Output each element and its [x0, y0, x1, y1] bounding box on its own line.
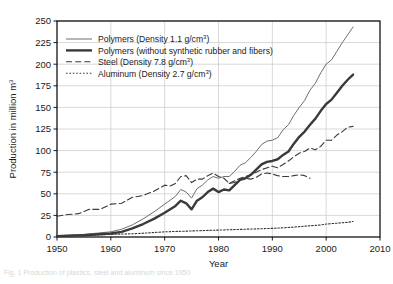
x-axis-tick-label: 1990: [262, 243, 283, 254]
y-axis-tick-label: 250: [35, 15, 51, 26]
y-axis-tick-label: 100: [35, 145, 51, 156]
y-axis-tick-label: 175: [35, 80, 51, 91]
y-axis-tick-label: 200: [35, 59, 51, 70]
legend-label-0: Polymers (Density 1.1 g/cm3): [98, 34, 209, 44]
y-axis-tick-label: 125: [35, 123, 51, 134]
series-line-3: [229, 126, 353, 183]
legend-label-2: Steel (Density 7.8 g/cm3): [98, 57, 193, 67]
x-axis-tick-label: 2000: [316, 243, 337, 254]
y-axis-tick-label: 25: [40, 210, 51, 221]
y-axis-tick-label: 50: [40, 188, 51, 199]
y-axis-tick-label: 0: [46, 231, 51, 242]
y-axis-title: Production in million m3: [7, 79, 18, 179]
x-axis-tick-label: 1980: [208, 243, 229, 254]
production-line-chart: 0255075100125150175200225250195019601970…: [0, 0, 393, 284]
figure-caption: Fig. 1 Production of plastics, steel and…: [4, 268, 389, 278]
x-axis-tick-label: 1970: [154, 243, 175, 254]
legend-label-3: Aluminum (Density 2.7 g/cm3): [98, 69, 212, 79]
y-axis-tick-label: 75: [40, 167, 51, 178]
series-line-1: [57, 75, 353, 237]
y-axis-tick-label: 150: [35, 102, 51, 113]
x-axis-tick-label: 2010: [369, 243, 390, 254]
y-axis-tick-label: 225: [35, 37, 51, 48]
figure-container: 0255075100125150175200225250195019601970…: [0, 0, 393, 284]
x-axis-tick-label: 1960: [100, 243, 121, 254]
legend-label-1: Polymers (without synthetic rubber and f…: [98, 46, 273, 56]
x-axis-tick-label: 1950: [46, 243, 67, 254]
